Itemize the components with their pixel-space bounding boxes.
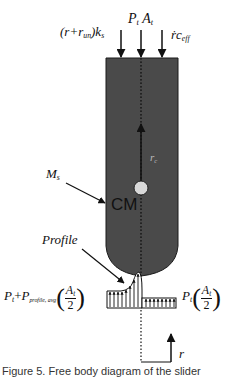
top-force-arrows (121, 30, 162, 57)
left-pressure-label: Pt+Pprofile, avg(At2) (4, 284, 85, 311)
center-of-mass-label: CM (111, 196, 137, 213)
damping-force-label: ṙceff (171, 28, 190, 43)
figure-caption: Figure 5. Free body diagram of the slide… (2, 366, 201, 377)
slider-body (106, 58, 178, 276)
top-pressure-label: Pt At (128, 12, 153, 28)
coordinate-label: r (179, 347, 184, 360)
left-pressure-block (107, 272, 142, 308)
mass-label: Ms (46, 167, 60, 182)
right-pressure-label: Pt(At2) (182, 284, 221, 311)
profile-label: Profile (42, 233, 78, 246)
mass-pointer-arrow (66, 183, 105, 203)
radius-cm-label: rc (150, 152, 157, 164)
spring-force-label: (r+run)ks (60, 25, 104, 40)
center-of-mass-marker (134, 181, 148, 195)
right-pressure-block (142, 298, 176, 308)
coordinate-axis (141, 334, 171, 362)
